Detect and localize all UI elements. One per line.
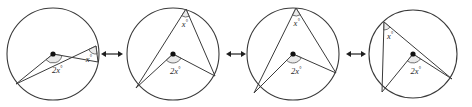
arrow-2-head-right bbox=[241, 51, 246, 57]
panel-2-center-dot bbox=[170, 51, 175, 56]
arrow-1-head-right bbox=[118, 51, 123, 57]
arrow-1 bbox=[101, 51, 123, 57]
arrow-3-head-right bbox=[361, 51, 366, 57]
panel-4: 2x°x° bbox=[369, 10, 457, 98]
arrow-3 bbox=[346, 51, 366, 57]
arrow-3-head-left bbox=[346, 51, 351, 57]
arrow-2-head-left bbox=[226, 51, 231, 57]
arrow-2 bbox=[226, 51, 246, 57]
panel-2: 2x°x° bbox=[127, 8, 219, 100]
arrow-1-head-left bbox=[101, 51, 106, 57]
inscribed-angle-diagram: 2x°x°2x°x°2x°x°2x°x° bbox=[0, 0, 472, 107]
panel-3-center-dot bbox=[290, 51, 295, 56]
diagram-canvas: 2x°x°2x°x°2x°x°2x°x° bbox=[0, 0, 472, 107]
panel-1: 2x°x° bbox=[7, 8, 99, 100]
panel-3: 2x°x° bbox=[247, 8, 339, 100]
panel-1-center-dot bbox=[50, 51, 55, 56]
panel-4-center-dot bbox=[410, 51, 415, 56]
